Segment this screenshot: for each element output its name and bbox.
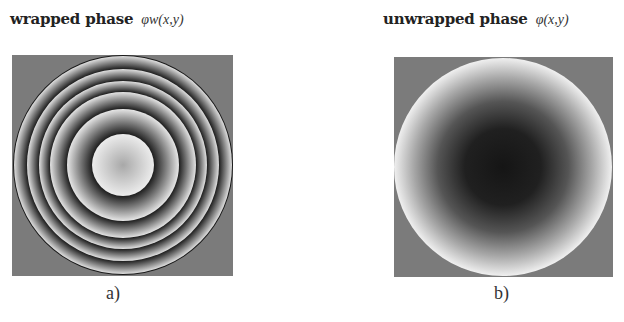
panel-b-caption: b) — [494, 283, 509, 304]
unwrapped-phase-image — [394, 57, 613, 277]
wrapped-phase-fringes — [12, 55, 233, 276]
panel-a-symbol: φw(x,y) — [141, 12, 183, 27]
panel-a-caption: a) — [106, 283, 120, 304]
wrapped-phase-image — [12, 55, 233, 276]
panel-a-title: wrapped phaseφw(x,y) — [10, 9, 184, 28]
panel-a-title-text: wrapped phase — [10, 10, 133, 28]
panel-b-title: unwrapped phaseφ(x,y) — [383, 9, 569, 28]
panel-b-symbol: φ(x,y) — [536, 12, 569, 27]
unwrapped-phase-disc — [394, 57, 613, 277]
panel-b-title-text: unwrapped phase — [383, 10, 528, 28]
